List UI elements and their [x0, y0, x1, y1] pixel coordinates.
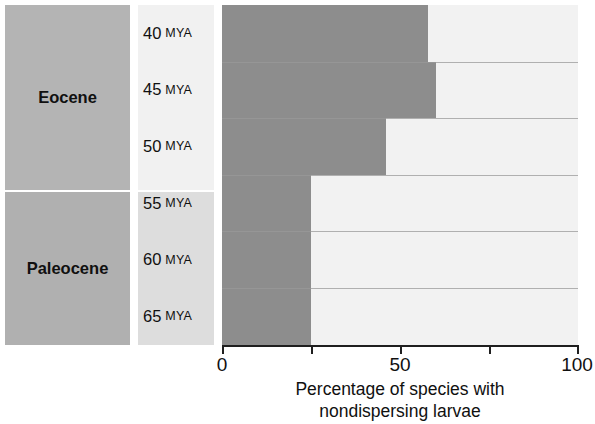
age-label-row: 50 MYA: [138, 118, 214, 175]
bar-40-mya: [222, 5, 428, 62]
epoch-column: Eocene Paleocene: [5, 5, 130, 345]
age-unit: MYA: [165, 139, 192, 153]
bar-row: [222, 288, 578, 345]
age-value: 40: [143, 24, 161, 43]
bar-row: [222, 62, 578, 119]
epoch-cell-eocene: Eocene: [5, 5, 130, 190]
bar-65-mya: [222, 288, 311, 345]
age-label-row: 65 MYA: [138, 288, 214, 345]
x-axis-title-line2: nondispersing larvae: [222, 400, 578, 422]
age-unit: MYA: [165, 253, 192, 267]
bar-50-mya: [222, 118, 386, 175]
age-unit: MYA: [165, 26, 192, 40]
row-separator: [222, 62, 578, 63]
age-value: 60: [143, 250, 161, 269]
x-tick-100: [577, 345, 579, 354]
age-value: 50: [143, 137, 161, 156]
epoch-cell-paleocene: Paleocene: [5, 192, 130, 345]
stratigraphic-bar-chart: Eocene Paleocene 40 MYA 45 MYA 50 MYA 55…: [0, 0, 595, 424]
epoch-label-paleocene: Paleocene: [27, 259, 109, 278]
row-separator: [222, 118, 578, 119]
bar-45-mya: [222, 62, 436, 119]
age-value: 55: [143, 194, 161, 213]
bar-row: [222, 5, 578, 62]
bar-55-mya: [222, 175, 311, 232]
x-tick-label-0: 0: [217, 354, 228, 376]
x-axis-title: Percentage of species with nondispersing…: [222, 378, 578, 422]
age-label-row: 40 MYA: [138, 5, 214, 62]
row-separator: [222, 231, 578, 232]
age-label-row: 45 MYA: [138, 62, 214, 119]
plot-area: [222, 5, 578, 345]
bar-row: [222, 175, 578, 232]
age-label-row: 60 MYA: [138, 231, 214, 288]
epoch-label-eocene: Eocene: [38, 88, 97, 107]
age-unit: MYA: [165, 309, 192, 323]
x-tick-25: [311, 345, 313, 354]
x-tick-label-50: 50: [389, 354, 410, 376]
row-separator: [222, 288, 578, 289]
age-unit: MYA: [165, 196, 192, 210]
bar-60-mya: [222, 231, 311, 288]
row-separator: [222, 175, 578, 176]
bar-row: [222, 231, 578, 288]
x-tick-label-100: 100: [561, 354, 593, 376]
age-value: 45: [143, 80, 161, 99]
age-label-row: 55 MYA: [138, 175, 214, 232]
age-column: 40 MYA 45 MYA 50 MYA 55 MYA 60 MYA 65 MY…: [138, 5, 214, 345]
age-unit: MYA: [165, 83, 192, 97]
x-tick-75: [489, 345, 491, 354]
age-value: 65: [143, 307, 161, 326]
x-tick-0: [222, 345, 224, 354]
x-tick-50: [400, 345, 402, 354]
x-axis-title-line1: Percentage of species with: [222, 378, 578, 400]
bar-row: [222, 118, 578, 175]
